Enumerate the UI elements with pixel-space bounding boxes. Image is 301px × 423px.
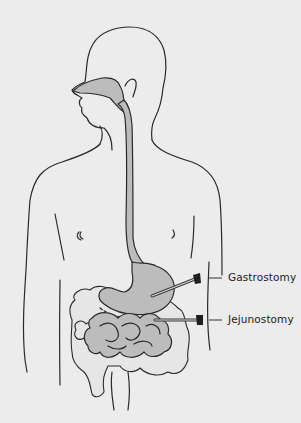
gastrostomy-port-icon [193, 273, 201, 284]
torso-right-lower-outline [208, 262, 210, 350]
left-nipple [77, 232, 83, 240]
jejunostomy-label: Jejunostomy [228, 313, 294, 325]
esophagus [118, 100, 146, 268]
right-arm-line [191, 216, 194, 258]
torso-right-outline [152, 140, 222, 275]
stomach [99, 262, 174, 315]
jaw-outline [100, 126, 102, 144]
anatomy-diagram [0, 0, 301, 423]
jejunostomy-port-icon [196, 315, 203, 325]
left-arm-line [55, 214, 64, 260]
right-nipple [172, 230, 174, 238]
rectum [111, 372, 129, 410]
ear-icon [125, 79, 136, 97]
gastrostomy-label: Gastrostomy [228, 271, 296, 283]
